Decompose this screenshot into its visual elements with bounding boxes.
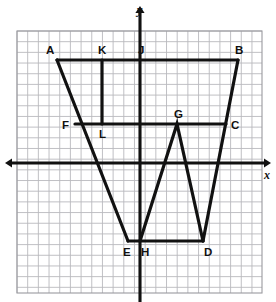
vertex-label-g: G [174, 109, 183, 121]
x-axis-arrow-left-icon [5, 158, 12, 167]
y-axis-label: y [137, 4, 142, 16]
x-axis-label: x [264, 169, 270, 181]
vertex-label-h: H [141, 247, 149, 259]
vertex-label-c: C [231, 120, 239, 132]
outline-B-C-D [203, 60, 238, 241]
figure-shape [57, 60, 238, 241]
vertex-label-a: A [46, 45, 54, 57]
outline-E-A [57, 60, 128, 241]
x-axis-arrow-right-icon [264, 158, 271, 167]
coordinate-plane-figure: y x AKJBFLGCEHD [0, 0, 276, 302]
vertex-label-f: F [62, 120, 69, 132]
vertex-label-d: D [204, 247, 212, 259]
vertex-label-b: B [235, 45, 243, 57]
vertex-label-k: K [98, 45, 106, 57]
vertex-label-j: J [138, 45, 144, 57]
vertex-label-l: L [99, 129, 106, 141]
vertex-label-e: E [123, 247, 131, 259]
